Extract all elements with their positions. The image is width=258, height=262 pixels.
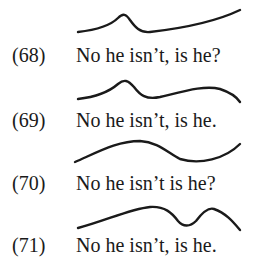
example-sentence: No he isn’t is he? xyxy=(76,172,216,194)
example-sentence: No he isn’t, is he? xyxy=(76,44,221,66)
example-70: (70)No he isn’t is he? xyxy=(12,172,216,194)
example-69: (69)No he isn’t, is he. xyxy=(12,109,217,131)
intonation-contour-70 xyxy=(0,129,258,169)
intonation-contour-68 xyxy=(0,0,258,40)
example-number: (68) xyxy=(12,44,76,66)
intonation-contour-69 xyxy=(0,67,258,107)
intonation-contour-71 xyxy=(0,193,258,233)
example-number: (70) xyxy=(12,172,76,194)
example-number: (69) xyxy=(12,109,76,131)
example-68: (68)No he isn’t, is he? xyxy=(12,44,221,66)
example-71: (71)No he isn’t, is he. xyxy=(12,234,217,256)
example-sentence: No he isn’t, is he. xyxy=(76,109,217,131)
example-sentence: No he isn’t, is he. xyxy=(76,234,217,256)
example-number: (71) xyxy=(12,234,76,256)
